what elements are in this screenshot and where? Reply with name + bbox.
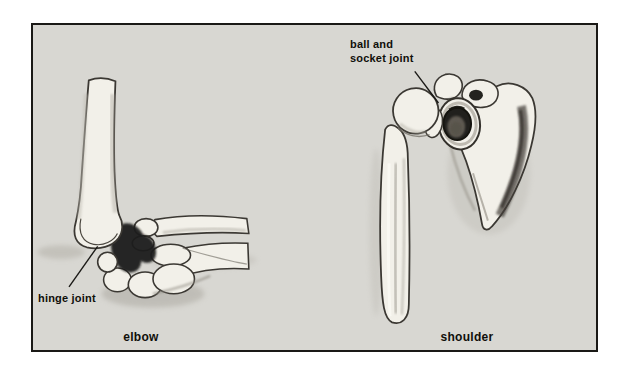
caption-elbow: elbow: [109, 331, 173, 344]
figure-frame: ball and socket joint hinge joint elbow …: [31, 23, 598, 352]
elbow-humerus-bone: [74, 78, 122, 248]
coracoid-process: [434, 74, 462, 99]
page: ball and socket joint hinge joint elbow …: [0, 0, 632, 376]
trochlear-notch-lump: [98, 252, 118, 272]
joints-illustration: [33, 25, 596, 350]
elbow-illustration: [37, 78, 256, 307]
elbow-cast-shadow: [37, 245, 84, 259]
label-hinge-joint: hinge joint: [38, 291, 96, 305]
label-ball-and-socket-joint: ball and socket joint: [350, 37, 414, 65]
spine-notch-shadow: [469, 90, 483, 101]
shoulder-humerus-bone: [380, 84, 444, 323]
caption-shoulder: shoulder: [435, 331, 499, 344]
shoulder-illustration: [369, 71, 535, 323]
